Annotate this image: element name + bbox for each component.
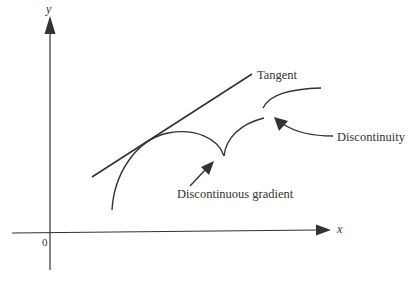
curve-continuity-diagram: y x 0 Tangent Discontinuous gradient (0, 0, 415, 282)
arrow-icon (274, 117, 288, 131)
discontinuous-gradient-arrow (190, 161, 214, 186)
y-axis-label: y (45, 2, 52, 16)
tangent-label: Tangent (257, 68, 298, 82)
curve-segment-2 (224, 118, 264, 156)
x-axis: x (12, 222, 343, 236)
curve-segment-3 (263, 88, 321, 108)
tangent-line (92, 74, 252, 177)
discontinuity-label: Discontinuity (337, 130, 406, 144)
origin-label: 0 (42, 236, 48, 248)
discontinuous-gradient-label: Discontinuous gradient (177, 187, 294, 201)
y-axis: y (45, 2, 56, 270)
discontinuity-arrow (274, 117, 333, 136)
x-axis-label: x (336, 222, 343, 236)
y-axis-arrow-icon (45, 16, 56, 34)
x-axis-arrow-icon (316, 225, 331, 236)
